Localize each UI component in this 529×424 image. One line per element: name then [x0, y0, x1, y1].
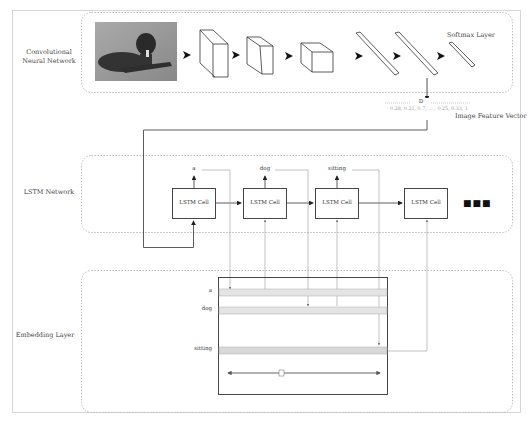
- lstm-cell-4-label: LSTM Cell: [404, 199, 448, 205]
- feature-dim-label: D: [411, 98, 431, 104]
- embedding-label: Embedding Layer: [10, 331, 80, 340]
- lstm-label: LSTM Network: [14, 188, 84, 197]
- feature-vector-values: 0.28, 0.21, 0.7, ... , 0.25, 0.33, 1: [379, 106, 479, 111]
- embedding-row-a: [219, 289, 387, 296]
- continuation-dots: ■■■: [463, 198, 492, 208]
- embedding-row-sitting: [219, 347, 387, 354]
- embedding-row-label-a: a: [180, 287, 212, 293]
- cnn-label-line1: Convolutional: [14, 48, 84, 57]
- embedding-row-label-sitting: sitting: [170, 345, 212, 351]
- lstm-cell-2-label: LSTM Cell: [243, 199, 287, 205]
- conv-cubes: [200, 30, 333, 77]
- output-word-a: a: [184, 165, 204, 171]
- output-word-sitting: sitting: [322, 165, 352, 171]
- embedding-row-dog: [219, 307, 387, 314]
- dog-photo: [95, 22, 177, 81]
- feature-vector-label: Image Feature Vector: [455, 112, 529, 121]
- lstm-cell-1-label: LSTM Cell: [172, 199, 216, 205]
- cnn-label: Convolutional Neural Network: [14, 48, 84, 66]
- feature-to-lstm-line: [144, 120, 428, 248]
- embedding-row-label-dog: dog: [180, 305, 212, 311]
- output-word-dog: dog: [255, 165, 275, 171]
- lstm-cell-3-label: LSTM Cell: [315, 199, 359, 205]
- cnn-label-line2: Neural Network: [14, 57, 84, 66]
- softmax-label: Softmax Layer: [447, 31, 507, 40]
